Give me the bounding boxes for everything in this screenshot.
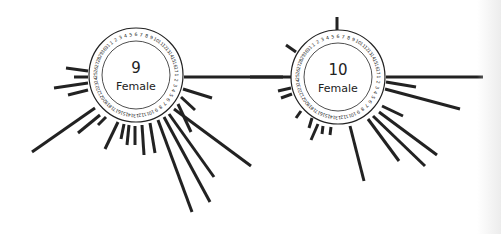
ray	[278, 88, 291, 91]
rim-number: 1	[174, 74, 179, 77]
dial-number: 9	[131, 59, 141, 77]
ray	[382, 106, 403, 116]
dial-10: 1234567891011121314151617181920212223242…	[250, 17, 483, 181]
ray	[309, 118, 312, 128]
ray	[386, 82, 416, 87]
rim-number: 17	[173, 66, 179, 73]
ray-diagram: 1234567891011121314151617181920212223242…	[0, 0, 501, 234]
dial-label: Female	[318, 82, 358, 95]
ray	[68, 90, 88, 95]
rim-number: 1	[376, 76, 381, 79]
ray	[281, 94, 292, 98]
rim-number: 17	[375, 68, 381, 75]
dial-number: 10	[328, 61, 347, 79]
ray	[322, 126, 323, 134]
ray	[158, 120, 192, 212]
ray	[127, 125, 129, 145]
dial-label: Female	[116, 80, 156, 93]
ray	[183, 89, 212, 98]
rim-number: 6	[337, 34, 340, 39]
ray	[98, 117, 106, 125]
ray	[54, 83, 88, 88]
ray	[142, 125, 144, 155]
dial-9: 1234567891011121314151617181920212223242…	[32, 28, 283, 212]
ray	[66, 68, 88, 71]
page-edge-shade	[477, 0, 501, 234]
ray	[286, 45, 296, 52]
ray	[311, 124, 318, 140]
ray	[330, 127, 331, 135]
rim-number: 6	[135, 32, 138, 37]
ray	[385, 89, 460, 109]
figure: 1234567891011121314151617181920212223242…	[0, 0, 501, 234]
ray	[105, 122, 118, 149]
ray	[181, 97, 195, 110]
ray	[150, 123, 155, 153]
ray	[350, 126, 364, 181]
ray	[296, 111, 301, 118]
ray	[32, 108, 95, 152]
ray	[121, 124, 124, 139]
